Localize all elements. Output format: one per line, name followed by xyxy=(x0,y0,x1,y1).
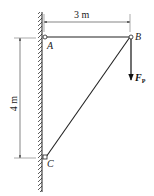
label-point-c: C xyxy=(47,158,54,169)
label-vertical-dim: 4 m xyxy=(8,94,19,114)
force-subscript: P xyxy=(142,78,146,84)
label-point-a: A xyxy=(47,40,53,51)
member-bc xyxy=(46,37,130,157)
label-point-b: B xyxy=(135,31,141,42)
pin-a xyxy=(43,35,47,39)
wall-support xyxy=(38,12,42,192)
label-force: FP xyxy=(135,72,145,84)
label-horizontal-dim: 3 m xyxy=(74,9,89,20)
pin-b xyxy=(129,35,133,39)
diagram-canvas xyxy=(0,0,154,196)
force-symbol: F xyxy=(135,72,142,83)
